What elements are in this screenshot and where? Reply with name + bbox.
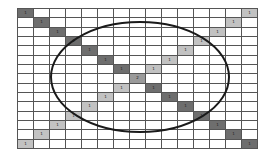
empty-cell <box>178 65 194 74</box>
center-cell: 2 <box>130 74 146 83</box>
anti-diagonal-cell: 1 <box>146 65 162 74</box>
main-diagonal-cell: 1 <box>210 121 226 130</box>
empty-cell <box>162 130 178 139</box>
empty-cell <box>226 37 242 46</box>
empty-cell <box>146 37 162 46</box>
empty-cell <box>194 93 210 102</box>
empty-cell <box>162 102 178 111</box>
empty-cell <box>50 93 66 102</box>
empty-cell <box>194 102 210 111</box>
empty-cell <box>66 84 82 93</box>
empty-cell <box>66 65 82 74</box>
empty-cell <box>82 28 98 37</box>
empty-cell <box>50 112 66 121</box>
empty-cell <box>162 46 178 55</box>
main-diagonal-cell: 1 <box>18 9 34 18</box>
empty-cell <box>242 112 258 121</box>
empty-cell <box>114 37 130 46</box>
empty-cell <box>82 74 98 83</box>
empty-cell <box>162 121 178 130</box>
empty-cell <box>98 84 114 93</box>
empty-cell <box>210 130 226 139</box>
empty-cell <box>242 102 258 111</box>
anti-diagonal-cell: 1 <box>178 46 194 55</box>
empty-cell <box>242 18 258 27</box>
empty-cell <box>34 56 50 65</box>
empty-cell <box>162 65 178 74</box>
empty-cell <box>242 74 258 83</box>
main-diagonal-cell: 1 <box>98 56 114 65</box>
empty-cell <box>130 130 146 139</box>
empty-cell <box>130 121 146 130</box>
anti-diagonal-cell: 1 <box>34 130 50 139</box>
empty-cell <box>242 84 258 93</box>
empty-cell <box>242 65 258 74</box>
empty-cell <box>98 140 114 149</box>
empty-cell <box>178 9 194 18</box>
empty-cell <box>194 56 210 65</box>
empty-cell <box>66 74 82 83</box>
empty-cell <box>50 56 66 65</box>
empty-cell <box>210 140 226 149</box>
empty-cell <box>82 65 98 74</box>
empty-cell <box>178 18 194 27</box>
anti-diagonal-cell: 1 <box>114 84 130 93</box>
empty-cell <box>146 102 162 111</box>
empty-cell <box>18 28 34 37</box>
empty-cell <box>178 140 194 149</box>
empty-cell <box>146 93 162 102</box>
empty-cell <box>114 74 130 83</box>
empty-cell <box>178 74 194 83</box>
main-diagonal-cell: 1 <box>178 102 194 111</box>
anti-diagonal-cell: 1 <box>194 37 210 46</box>
empty-cell <box>162 28 178 37</box>
empty-cell <box>162 140 178 149</box>
empty-cell <box>210 93 226 102</box>
empty-cell <box>114 112 130 121</box>
anti-diagonal-cell: 1 <box>18 140 34 149</box>
empty-cell <box>146 9 162 18</box>
anti-diagonal-cell: 1 <box>242 9 258 18</box>
empty-cell <box>194 130 210 139</box>
empty-cell <box>194 84 210 93</box>
empty-cell <box>18 37 34 46</box>
empty-cell <box>194 9 210 18</box>
empty-cell <box>226 65 242 74</box>
empty-cell <box>18 18 34 27</box>
empty-cell <box>18 84 34 93</box>
empty-cell <box>210 56 226 65</box>
empty-cell <box>162 84 178 93</box>
empty-cell <box>82 18 98 27</box>
empty-cell <box>178 112 194 121</box>
empty-cell <box>146 28 162 37</box>
empty-cell <box>82 56 98 65</box>
main-diagonal-cell: 1 <box>50 28 66 37</box>
empty-cell <box>82 9 98 18</box>
empty-cell <box>66 28 82 37</box>
empty-cell <box>226 102 242 111</box>
anti-diagonal-cell: 1 <box>66 112 82 121</box>
empty-cell <box>34 102 50 111</box>
empty-cell <box>50 130 66 139</box>
empty-cell <box>210 46 226 55</box>
matrix-grid: 11111111111111211111111111111 <box>17 8 258 149</box>
main-diagonal-cell: 1 <box>194 112 210 121</box>
empty-cell <box>66 130 82 139</box>
empty-cell <box>66 56 82 65</box>
empty-cell <box>50 140 66 149</box>
empty-cell <box>66 102 82 111</box>
empty-cell <box>242 46 258 55</box>
empty-cell <box>130 93 146 102</box>
empty-cell <box>146 18 162 27</box>
empty-cell <box>178 130 194 139</box>
empty-cell <box>114 9 130 18</box>
empty-cell <box>34 112 50 121</box>
empty-cell <box>178 28 194 37</box>
empty-cell <box>114 56 130 65</box>
empty-cell <box>178 93 194 102</box>
empty-cell <box>98 102 114 111</box>
empty-cell <box>210 112 226 121</box>
empty-cell <box>50 18 66 27</box>
empty-cell <box>34 121 50 130</box>
empty-cell <box>82 121 98 130</box>
